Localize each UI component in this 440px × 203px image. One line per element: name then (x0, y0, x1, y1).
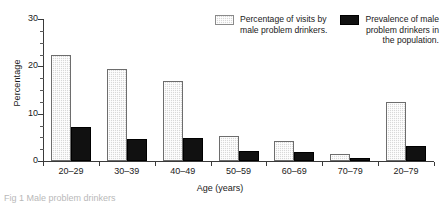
y-tick-label: 10 (8, 108, 38, 118)
legend-label-prevalence: Prevalence of male problem drinkers in t… (365, 14, 439, 46)
x-tick (434, 162, 435, 166)
x-axis-line (43, 161, 434, 162)
y-tick-label: 0 (8, 155, 38, 165)
y-tick-minor (40, 43, 44, 44)
bar-prevalence-50-59 (239, 151, 259, 161)
x-category-label: 50–59 (212, 166, 266, 176)
x-category-label: 20–29 (44, 166, 98, 176)
x-axis-title: Age (years) (0, 183, 440, 193)
bar-visits-60-69 (274, 141, 294, 161)
legend: Percentage of visits by male problem dri… (215, 14, 440, 70)
y-tick-major (38, 114, 44, 115)
y-tick-minor (40, 55, 44, 56)
y-tick-major (38, 19, 44, 20)
legend-entry-prevalence: Prevalence of male problem drinkers in t… (340, 14, 440, 46)
legend-label-visits: Percentage of visits by male problem dri… (240, 14, 333, 35)
y-tick-minor (40, 126, 44, 127)
y-tick-label: 20 (8, 60, 38, 70)
y-tick-minor (40, 149, 44, 150)
bar-prevalence-20-29 (71, 127, 91, 161)
x-category-label: 70–79 (323, 166, 377, 176)
bar-visits-20-79 (386, 102, 406, 161)
bar-visits-50-59 (219, 136, 239, 161)
legend-swatch-visits-icon (215, 15, 234, 25)
bar-prevalence-20-79 (406, 146, 426, 161)
y-tick-minor (40, 137, 44, 138)
x-category-label: 40–49 (156, 166, 210, 176)
y-tick-major (38, 66, 44, 67)
x-category-label: 60–69 (267, 166, 321, 176)
y-tick-minor (40, 102, 44, 103)
y-tick-minor (40, 78, 44, 79)
bar-visits-30-39 (107, 69, 127, 161)
x-category-label: 20–79 (379, 166, 433, 176)
y-tick-label: 30 (8, 13, 38, 23)
bar-visits-40-49 (163, 81, 183, 161)
y-tick-minor (40, 90, 44, 91)
bar-prevalence-30-39 (127, 139, 147, 161)
figure-caption: Fig 1 Male problem drinkers (4, 193, 116, 203)
bar-prevalence-60-69 (294, 152, 314, 161)
bar-prevalence-70-79 (350, 158, 370, 161)
bar-chart-figure: Percentage Age (years) 0102030 20–2930–3… (0, 0, 440, 203)
bar-visits-70-79 (330, 154, 350, 161)
legend-entry-visits: Percentage of visits by male problem dri… (215, 14, 333, 35)
bar-visits-20-29 (51, 55, 71, 162)
legend-swatch-prevalence-icon (340, 15, 359, 25)
y-tick-minor (40, 31, 44, 32)
x-category-label: 30–39 (100, 166, 154, 176)
bar-prevalence-40-49 (183, 138, 203, 161)
